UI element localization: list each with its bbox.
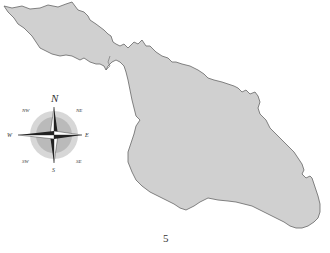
- compass-label-northeast: NE: [75, 108, 82, 113]
- page-number: 5: [163, 232, 169, 244]
- island-map: N S E W NE NW SE SW: [0, 0, 330, 253]
- compass-label-east: E: [84, 132, 89, 138]
- compass-label-southeast: SE: [76, 159, 82, 164]
- compass-rose: N S E W NE NW SE SW: [7, 92, 89, 173]
- compass-label-west: W: [7, 132, 13, 138]
- compass-label-south: S: [52, 167, 55, 173]
- compass-label-northwest: NW: [21, 108, 30, 113]
- compass-label-north: N: [50, 92, 59, 104]
- compass-label-southwest: SW: [22, 159, 30, 164]
